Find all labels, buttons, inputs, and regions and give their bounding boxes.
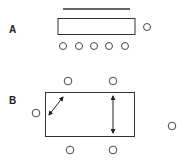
panel-a-rectangle (58, 19, 135, 35)
circle (109, 77, 117, 85)
panel-b-label: B (9, 95, 16, 106)
diagram: A B (0, 0, 190, 162)
circle (109, 146, 117, 154)
circle (76, 43, 83, 50)
panel-a-circle-row (60, 43, 129, 50)
panel-a: A (9, 9, 151, 50)
circle (64, 77, 72, 85)
panel-a-label: A (9, 24, 16, 35)
circle (60, 43, 67, 50)
circle (32, 109, 40, 117)
circle (122, 43, 129, 50)
circle (106, 43, 113, 50)
panel-b-rectangle (46, 93, 135, 137)
panel-a-side-circle (144, 24, 151, 31)
panel-b: B (9, 77, 176, 154)
circle (168, 122, 176, 130)
diagonal-double-arrow (49, 97, 63, 115)
circle (91, 43, 98, 50)
circle (66, 146, 74, 154)
